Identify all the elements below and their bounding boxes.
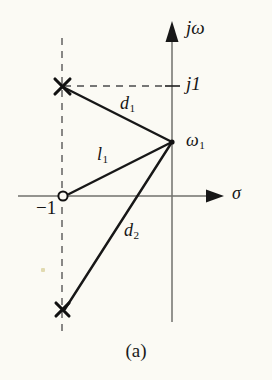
sigma-axis-arrowhead bbox=[206, 190, 224, 203]
omega1-label-base: ω bbox=[186, 130, 199, 150]
omega1-label-subscript: 1 bbox=[199, 139, 205, 151]
d2-label: d2 bbox=[124, 221, 139, 241]
d1-label: d1 bbox=[120, 94, 135, 114]
vector-d2 bbox=[65, 142, 172, 309]
zero-marker bbox=[58, 191, 67, 200]
omega1-point bbox=[169, 139, 174, 144]
l1-label: l1 bbox=[97, 145, 108, 165]
figure-caption: (a) bbox=[0, 340, 272, 362]
jomega-axis-arrowhead bbox=[166, 21, 179, 42]
d1-label-subscript: 1 bbox=[129, 102, 135, 114]
minus-one-label: −1 bbox=[36, 198, 56, 217]
d2-label-base: d bbox=[124, 220, 133, 240]
jomega-axis bbox=[166, 21, 179, 322]
d2-label-subscript: 2 bbox=[133, 229, 139, 241]
d1-label-base: d bbox=[120, 93, 129, 113]
j1-tick-label: j1 bbox=[186, 74, 201, 93]
pole-zero-figure: jω j1 ω1 σ −1 d1 l1 d2 (a) bbox=[0, 0, 272, 380]
jomega-axis-label: jω bbox=[186, 18, 205, 37]
l1-label-subscript: 1 bbox=[102, 153, 108, 165]
sigma-axis-label: σ bbox=[232, 184, 241, 202]
vector-d1 bbox=[63, 87, 172, 142]
omega1-label: ω1 bbox=[186, 131, 205, 151]
